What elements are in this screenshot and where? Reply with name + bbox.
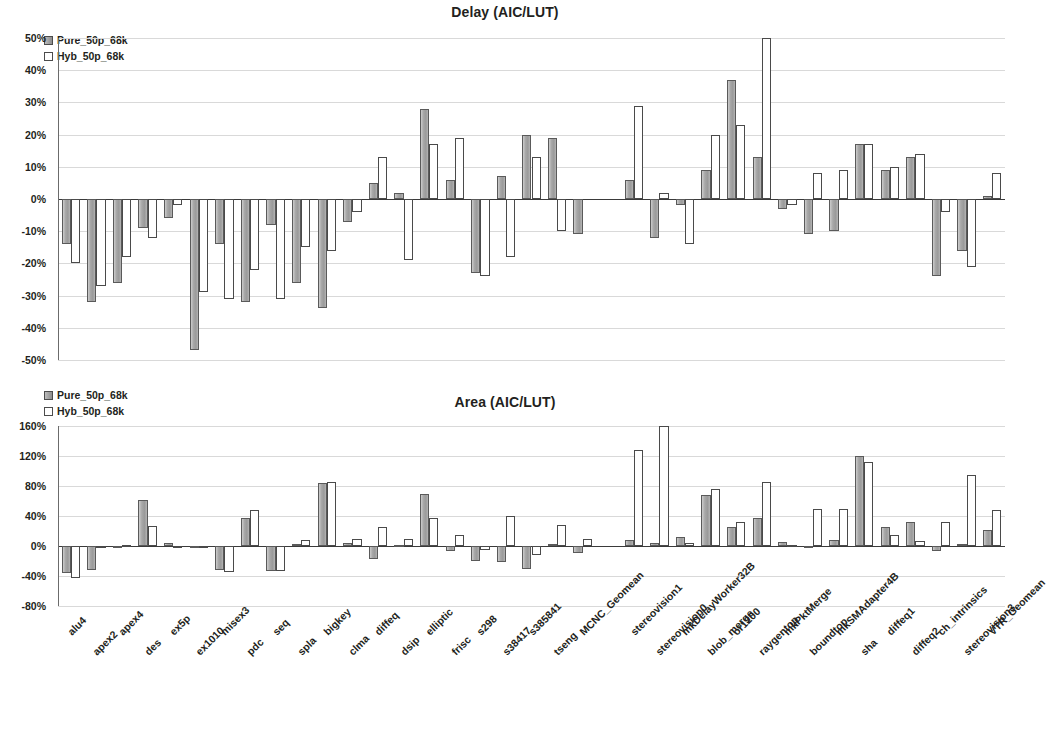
y-axis-tick-label: 120%: [0, 450, 46, 462]
bar-hyb-bigkey: [327, 199, 336, 251]
bar-pure-s385841: [522, 546, 531, 569]
bar-pure-or1200: [727, 80, 736, 199]
bar-hyb-frisc: [455, 138, 464, 199]
bar-pure-diffeq: [369, 546, 378, 559]
bar-hyb-ex5p: [173, 546, 182, 548]
bar-pure-apex2: [87, 546, 96, 570]
y-axis-tick-label: 160%: [0, 420, 46, 432]
bar-pure-pdc: [241, 518, 250, 547]
y-axis-tick-label: -50%: [0, 354, 46, 366]
y-axis-tick-label: 0%: [0, 540, 46, 552]
bar-pure-mkDelayWorker32B: [676, 199, 685, 205]
bar-hyb-blob_merge: [711, 135, 720, 199]
y-axis-tick-label: 80%: [0, 480, 46, 492]
bar-hyb-seq: [276, 546, 285, 571]
bar-hyb-apex2: [96, 199, 105, 286]
bar-pure-dsip: [394, 545, 403, 547]
x-axis-label-sha: sha: [858, 636, 879, 657]
bar-hyb-stereovision0: [659, 426, 668, 546]
bar-hyb-diffeq: [378, 157, 387, 199]
bar-pure-boundtop: [804, 546, 813, 548]
bar-pure-sha: [855, 144, 864, 199]
legend-swatch-pure-icon: [44, 391, 53, 400]
bar-pure-boundtop: [804, 199, 813, 234]
bar-hyb-raygentop: [762, 38, 771, 199]
bar-hyb-s38417: [506, 516, 515, 546]
bar-hyb-diffeq1: [890, 167, 899, 199]
y-axis-tick-label: 0%: [0, 193, 46, 205]
bar-pure-seq: [266, 546, 275, 571]
bar-hyb-diffeq1: [890, 535, 899, 546]
legend-swatch-hyb-icon: [44, 407, 53, 416]
legend-swatch-hyb-icon: [44, 52, 53, 61]
bar-pure-tseng: [548, 544, 557, 546]
bar-pure-misex3: [215, 546, 224, 570]
legend-item-pure: Pure_50p_68k: [44, 388, 128, 402]
y-axis-tick-label: -40%: [0, 570, 46, 582]
x-axis-label-des: des: [142, 636, 163, 657]
bar-hyb-misex3: [224, 546, 233, 572]
bar-pure-diffeq2: [906, 522, 915, 546]
bar-hyb-ex5p: [173, 199, 182, 205]
bar-pure-apex4: [113, 546, 122, 548]
bar-pure-elliptic: [420, 494, 429, 547]
y-axis-tick-label: -20%: [0, 257, 46, 269]
bar-hyb-sha: [864, 462, 873, 546]
bar-hyb-spla: [301, 540, 310, 546]
bar-pure-diffeq2: [906, 157, 915, 199]
bar-pure-stereovision1: [625, 180, 634, 199]
bar-pure-alu4: [62, 546, 71, 573]
bar-hyb-boundtop: [813, 173, 822, 199]
bar-hyb-seq: [276, 199, 285, 299]
bar-hyb-tseng: [557, 199, 566, 231]
bar-pure-ch_intrinsics: [932, 546, 941, 551]
x-axis-label-tseng: tseng: [551, 629, 579, 657]
bar-pure-clma: [343, 199, 352, 222]
area-chart: Area (AIC/LUT) Pure_50p_68k Hyb_50p_68k …: [0, 378, 1010, 623]
y-axis-tick-label: 10%: [0, 161, 46, 173]
bar-hyb-stereovision3: [967, 199, 976, 267]
bar-hyb-blob_merge: [711, 489, 720, 546]
bar-hyb-MCNC_Geomean: [583, 539, 592, 546]
bar-pure-raygentop: [753, 518, 762, 547]
legend-item-hyb: Hyb_50p_68k: [44, 404, 128, 418]
bar-pure-diffeq1: [881, 527, 890, 546]
bar-hyb-stereovision1: [634, 106, 643, 199]
bar-hyb-VTR_Geomean: [992, 510, 1001, 546]
bar-pure-spla: [292, 544, 301, 546]
bar-hyb-mkPktMerge: [787, 545, 796, 547]
bar-pure-clma: [343, 543, 352, 546]
grid-line: [58, 360, 1005, 361]
bar-hyb-diffeq: [378, 527, 387, 547]
bar-pure-VTR_Geomean: [983, 530, 992, 546]
bar-hyb-ch_intrinsics: [941, 199, 950, 212]
bar-pure-alu4: [62, 199, 71, 244]
bar-hyb-apex4: [122, 545, 131, 547]
legend-label-pure: Pure_50p_68k: [57, 389, 128, 401]
bar-hyb-elliptic: [429, 144, 438, 199]
area-plot-area: 160%120%80%40%0%-40%-80%: [58, 426, 1005, 606]
bar-hyb-pdc: [250, 510, 259, 546]
bar-pure-raygentop: [753, 157, 762, 199]
bar-group: [58, 426, 1005, 606]
area-chart-title: Area (AIC/LUT): [0, 394, 1010, 410]
bar-pure-diffeq1: [881, 170, 890, 199]
bar-hyb-clma: [352, 539, 361, 546]
x-axis-label-frisc: frisc: [449, 633, 473, 657]
bar-pure-stereovision3: [957, 199, 966, 251]
bar-hyb-s385841: [532, 157, 541, 199]
bar-hyb-stereovision0: [659, 193, 668, 199]
bar-hyb-apex2: [96, 546, 105, 548]
delay-chart-title: Delay (AIC/LUT): [0, 4, 1010, 20]
bar-hyb-mkSMAdapter4B: [839, 170, 848, 199]
area-legend: Pure_50p_68k Hyb_50p_68k: [44, 388, 128, 420]
bar-pure-stereovision0: [650, 199, 659, 238]
bar-hyb-des: [148, 199, 157, 238]
bar-hyb-dsip: [404, 539, 413, 547]
y-axis-tick-label: 50%: [0, 32, 46, 44]
x-axis-labels: alu4apex2apex4desex5pex1010misex3pdcseqs…: [0, 623, 1010, 739]
bar-hyb-mkDelayWorker32B: [685, 543, 694, 546]
x-axis-label-spla: spla: [295, 634, 318, 657]
y-axis-tick-label: 40%: [0, 510, 46, 522]
bar-pure-stereovision0: [650, 543, 659, 546]
